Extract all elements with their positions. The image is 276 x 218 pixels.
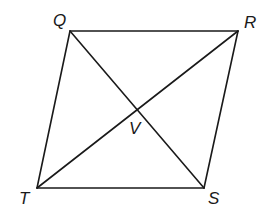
vertex-label-s: S bbox=[208, 190, 219, 207]
diagonal-RT bbox=[37, 31, 238, 188]
vertex-label-r: R bbox=[244, 14, 256, 31]
intersection-label-v: V bbox=[129, 120, 140, 137]
diagram-lines bbox=[0, 0, 276, 218]
parallelogram-diagram: Q R S T V bbox=[0, 0, 276, 218]
vertex-label-q: Q bbox=[53, 12, 66, 29]
side-TQ bbox=[37, 31, 70, 188]
vertex-label-t: T bbox=[19, 190, 29, 207]
